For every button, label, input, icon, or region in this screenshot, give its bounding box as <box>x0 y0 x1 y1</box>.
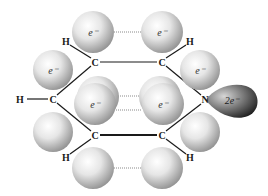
atom-c-top-right: C <box>158 57 165 68</box>
electron-label-lone-pair: 2e⁻ <box>225 95 240 106</box>
atom-c-left: C <box>49 94 56 105</box>
diagram-canvas: C C C N C C H H H H H e⁻ e⁻ e⁻ e⁻ e⁻ e⁻ … <box>0 0 268 196</box>
p-orbital-lower-right <box>180 112 220 152</box>
electron-label-middle-right: e⁻ <box>158 99 168 110</box>
electron-label-upper-right: e⁻ <box>195 65 205 76</box>
atom-c-bottom-right: C <box>158 130 165 141</box>
atom-h-top-right: H <box>186 36 194 47</box>
atom-c-top-left: C <box>91 57 98 68</box>
atom-h-top-left: H <box>62 36 70 47</box>
atom-h-left: H <box>16 94 24 105</box>
atom-h-bottom-left: H <box>62 152 70 163</box>
electron-label-middle-left: e⁻ <box>90 99 100 110</box>
electron-label-top-left: e⁻ <box>88 27 98 38</box>
p-orbital-bottom-left <box>72 147 114 189</box>
electron-label-upper-left: e⁻ <box>48 65 58 76</box>
atom-c-bottom-left: C <box>91 130 98 141</box>
p-orbital-bottom-right <box>141 147 183 189</box>
p-orbital-lower-left <box>33 112 73 152</box>
pyridine-diagram: C C C N C C H H H H H e⁻ e⁻ e⁻ e⁻ e⁻ e⁻ … <box>0 0 268 196</box>
atom-h-bottom-right: H <box>186 152 194 163</box>
atom-n: N <box>201 94 209 105</box>
electron-label-top-right: e⁻ <box>157 27 167 38</box>
